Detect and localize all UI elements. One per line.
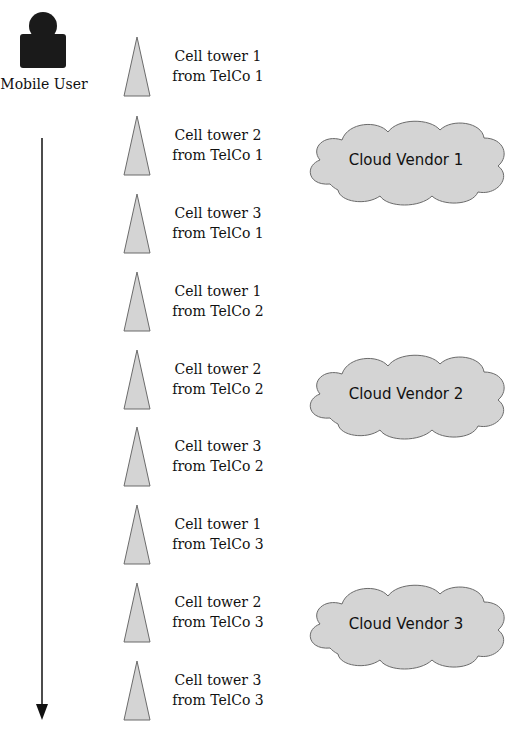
cell-tower-label: Cell tower 1from TelCo 1 — [158, 46, 278, 86]
cell-tower-icon — [122, 115, 152, 177]
tower-name: Cell tower 1 — [158, 46, 278, 66]
telco-name: from TelCo 3 — [158, 612, 278, 632]
telco-name: from TelCo 1 — [158, 145, 278, 165]
person-icon — [15, 10, 71, 72]
telco-name: from TelCo 1 — [158, 66, 278, 86]
cell-tower-label: Cell tower 3from TelCo 2 — [158, 436, 278, 476]
telco-name: from TelCo 3 — [158, 690, 278, 710]
tower-name: Cell tower 1 — [158, 281, 278, 301]
cell-tower-icon — [122, 426, 152, 488]
cell-tower-icon — [122, 271, 152, 333]
telco-name: from TelCo 2 — [158, 301, 278, 321]
cell-tower-label: Cell tower 2from TelCo 1 — [158, 125, 278, 165]
arrow-down-icon — [32, 138, 52, 720]
tower-name: Cell tower 1 — [158, 514, 278, 534]
cloud-vendor-label: Cloud Vendor 2 — [300, 385, 512, 403]
cell-tower-icon — [122, 349, 152, 411]
telco-name: from TelCo 1 — [158, 223, 278, 243]
tower-name: Cell tower 3 — [158, 203, 278, 223]
tower-name: Cell tower 2 — [158, 125, 278, 145]
cell-tower-icon — [122, 504, 152, 566]
telco-name: from TelCo 3 — [158, 534, 278, 554]
cell-tower-icon — [122, 660, 152, 722]
tower-name: Cell tower 2 — [158, 359, 278, 379]
telco-name: from TelCo 2 — [158, 379, 278, 399]
cloud-vendor-label: Cloud Vendor 3 — [300, 615, 512, 633]
diagram-canvas: Mobile User Cell tower 1from TelCo 1Cell… — [0, 0, 531, 741]
tower-name: Cell tower 3 — [158, 670, 278, 690]
mobile-user-label: Mobile User — [0, 76, 88, 92]
tower-name: Cell tower 3 — [158, 436, 278, 456]
cell-tower-label: Cell tower 2from TelCo 3 — [158, 592, 278, 632]
cell-tower-label: Cell tower 3from TelCo 1 — [158, 203, 278, 243]
cloud-vendor-label: Cloud Vendor 1 — [300, 151, 512, 169]
cell-tower-icon — [122, 36, 152, 98]
cell-tower-label: Cell tower 1from TelCo 2 — [158, 281, 278, 321]
cell-tower-label: Cell tower 1from TelCo 3 — [158, 514, 278, 554]
tower-name: Cell tower 2 — [158, 592, 278, 612]
cell-tower-icon — [122, 582, 152, 644]
cell-tower-label: Cell tower 3from TelCo 3 — [158, 670, 278, 710]
cell-tower-icon — [122, 193, 152, 255]
cell-tower-label: Cell tower 2from TelCo 2 — [158, 359, 278, 399]
telco-name: from TelCo 2 — [158, 456, 278, 476]
